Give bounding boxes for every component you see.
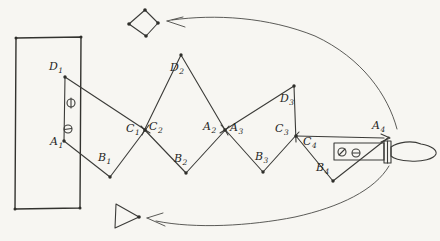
slot-screw-icon — [64, 125, 72, 133]
triangle-marker — [115, 204, 141, 228]
crank-collar — [384, 141, 391, 163]
label-B4: B4 — [316, 162, 329, 175]
label-A1: A1 — [50, 136, 63, 149]
label-D1: D1 — [49, 61, 63, 74]
label-D3: D3 — [280, 93, 294, 106]
label-A4: A4 — [372, 120, 385, 133]
slash-screw-icon — [338, 148, 346, 156]
label-A2: A2 — [203, 121, 216, 134]
label-B2: B2 — [174, 153, 187, 166]
crank-handle-grip — [391, 142, 436, 161]
label-C3: C3 — [275, 123, 289, 136]
label-B1: B1 — [98, 152, 111, 165]
diamond-marker — [127, 8, 160, 38]
rotation-arrow-bottom — [147, 166, 389, 226]
label-B3: B3 — [255, 151, 268, 164]
figure-canvas: D1 A1 B1 C1 C2 D2 B2 A2 A3 D3 C3 C4 B3 B… — [0, 0, 440, 241]
label-C4: C4 — [303, 136, 317, 149]
minus-screw-icon — [352, 149, 360, 157]
backing-plate — [14, 36, 83, 211]
phi-screw-icon — [67, 98, 75, 108]
label-D2: D2 — [170, 62, 184, 75]
label-A3: A3 — [230, 122, 243, 135]
rotation-arrow-top — [167, 17, 397, 129]
label-C2: C2 — [149, 121, 163, 134]
label-C1: C1 — [126, 123, 140, 136]
crank-shaft — [334, 143, 384, 160]
